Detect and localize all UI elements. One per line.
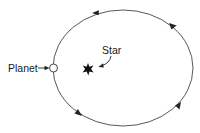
star-label: Star xyxy=(102,44,122,56)
star-icon xyxy=(83,63,94,76)
planet-label: Planet xyxy=(8,62,38,74)
planet-circle-icon xyxy=(50,64,58,72)
arrow-icon xyxy=(99,63,104,67)
orbit-diagram: Planet Star xyxy=(0,0,200,133)
arrow-icon xyxy=(169,23,177,30)
arrow-icon xyxy=(175,102,181,110)
orbit-direction-arrows xyxy=(75,10,182,116)
arrow-icon xyxy=(75,109,83,116)
arrow-icon xyxy=(45,66,50,70)
